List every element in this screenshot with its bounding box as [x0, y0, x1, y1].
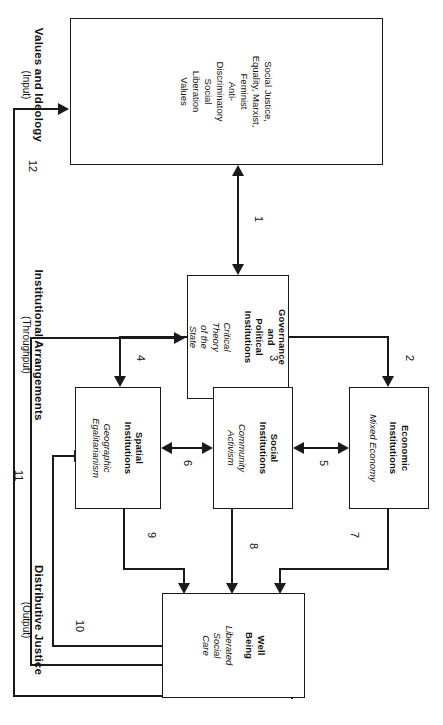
box-spatial[interactable]: Spatial Institutions Geographic Egalitar…: [75, 387, 161, 509]
box-spatial-subtitle: Geographic Egalitarianism: [91, 418, 114, 478]
connector-7-line-v: [279, 568, 389, 570]
connector-8-line: [231, 509, 233, 583]
connector-1-line: [237, 176, 239, 264]
section-label-input-sub: (Input): [20, 10, 32, 160]
box-wellbeing-title: Well Being: [244, 632, 267, 659]
connector-11-line-v2: [30, 337, 175, 339]
box-wellbeing[interactable]: Well Being Liberated Social Care: [162, 593, 305, 698]
section-label-input-main: Values and Ideology: [32, 10, 45, 160]
connector-5-arrowhead-up: [338, 442, 349, 454]
connector-2-arrowhead: [382, 376, 394, 387]
connector-4-arrowhead: [114, 376, 126, 387]
connector-1-arrowhead-left: [232, 165, 244, 176]
connector-7-label: 7: [349, 532, 361, 538]
connector-10-line-v1: [52, 645, 164, 647]
box-values-subtitle: Social Justice, Equality, Marxist, Femin…: [179, 56, 275, 128]
connector-5-line: [301, 447, 339, 449]
section-label-throughput-main: Institutional Arrangements: [32, 245, 45, 445]
connector-12-arrowhead: [58, 103, 69, 115]
section-label-throughput: Institutional Arrangements (Throughput): [20, 245, 45, 445]
connector-7-line-h: [387, 509, 389, 570]
box-spatial-title: Spatial Institutions: [123, 422, 146, 474]
box-economic-title: Economic Institutions: [388, 422, 411, 474]
connector-2-line-v: [288, 336, 389, 338]
connector-10-label: 10: [74, 620, 86, 632]
connector-10-line-v2: [52, 455, 75, 457]
connector-9-line-h: [123, 509, 125, 570]
connector-5-arrowhead-down: [293, 442, 304, 454]
connector-9-label: 9: [146, 532, 158, 538]
connector-12-label: 12: [27, 160, 39, 172]
connector-11-line-v1: [30, 664, 164, 666]
section-label-output-main: Distributive Justice: [32, 540, 45, 700]
connector-3-label: 3: [268, 355, 280, 361]
connector-10-line-h: [52, 455, 54, 647]
connector-6-line: [169, 447, 203, 449]
box-social-subtitle: Community Activism: [226, 424, 249, 472]
connector-6-arrowhead-up: [202, 442, 213, 454]
connector-6-arrowhead-down: [161, 442, 172, 454]
section-label-input: Values and Ideology (Input): [20, 10, 45, 160]
connector-4-line-h: [119, 336, 121, 376]
box-governance[interactable]: Governance and Political Institutions Cr…: [187, 275, 289, 399]
connector-2-label: 2: [404, 355, 416, 361]
connector-11-label: 11: [13, 470, 25, 481]
box-social-title: Social Institutions: [258, 422, 281, 474]
connector-11-arrowhead: [174, 332, 185, 344]
section-label-throughput-sub: (Throughput): [20, 245, 32, 445]
connector-12-line-h: [13, 108, 15, 697]
connector-6-label: 6: [182, 460, 194, 466]
connector-1-label: 1: [253, 216, 265, 222]
section-label-output: Distributive Justice (Output): [20, 540, 45, 700]
connector-9-line-v: [123, 568, 185, 570]
box-social[interactable]: Social Institutions Community Activism: [213, 387, 293, 509]
box-values[interactable]: Social Justice, Equality, Marxist, Femin…: [70, 18, 383, 165]
box-governance-title: Governance and Political Institutions: [243, 309, 289, 365]
diagram-canvas: Values and Ideology (Input) Institutiona…: [0, 0, 443, 725]
section-label-output-sub: (Output): [20, 540, 32, 700]
connector-4-label: 4: [135, 355, 147, 361]
box-governance-subtitle: Critical Theory of the State: [188, 322, 234, 352]
connector-2-line-h: [387, 336, 389, 376]
box-economic-subtitle: Mixed Economy: [367, 414, 379, 482]
connector-1-arrowhead-right: [232, 264, 244, 275]
connector-5-label: 5: [318, 460, 330, 466]
connector-8-label: 8: [248, 543, 260, 549]
box-wellbeing-subtitle: Liberated Social Care: [200, 626, 235, 666]
box-economic[interactable]: Economic Institutions Mixed Economy: [349, 387, 429, 509]
